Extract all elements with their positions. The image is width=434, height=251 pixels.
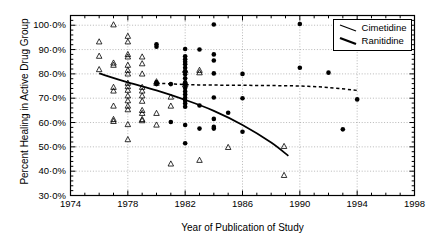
- x-tick-label: 1986: [223, 199, 263, 209]
- legend: Cimetidine Ranitidine: [333, 19, 412, 51]
- data-point-ranitidine: [197, 126, 202, 131]
- data-point-ranitidine: [212, 95, 217, 100]
- cimetidine-line-icon: [337, 22, 359, 34]
- data-point-ranitidine: [240, 96, 245, 101]
- ranitidine-line-icon: [337, 35, 359, 47]
- data-point-ranitidine: [183, 141, 188, 146]
- data-point-ranitidine: [154, 44, 159, 49]
- y-tick-labels: 30·0%40·0%50·0%60·0%70·0%80·0%90·0%100·0…: [18, 0, 66, 251]
- data-point-ranitidine: [212, 58, 217, 63]
- data-point-ranitidine: [183, 123, 188, 128]
- data-point-cimetidine: [139, 71, 145, 76]
- data-point-cimetidine: [139, 98, 145, 103]
- x-tick-label: 1974: [51, 199, 91, 209]
- data-point-ranitidine: [341, 127, 346, 132]
- x-tick-label: 1982: [165, 199, 205, 209]
- legend-entry-ranitidine: Ranitidine: [337, 35, 407, 48]
- y-tick-label: 90·0%: [22, 45, 66, 55]
- data-point-cimetidine: [96, 39, 102, 44]
- data-point-cimetidine: [281, 172, 287, 177]
- data-point-ranitidine: [212, 22, 217, 27]
- x-tick-label: 1994: [337, 199, 377, 209]
- legend-label-cimetidine: Cimetidine: [359, 23, 407, 33]
- data-point-cimetidine: [111, 103, 117, 108]
- data-point-cimetidine: [111, 22, 117, 27]
- data-point-ranitidine: [169, 120, 174, 125]
- y-tick-label: 100·0%: [22, 20, 66, 30]
- y-tick-label: 40·0%: [22, 166, 66, 176]
- data-point-ranitidine: [183, 104, 188, 109]
- data-point-ranitidine: [212, 52, 217, 57]
- data-point-cimetidine: [197, 157, 203, 162]
- data-point-ranitidine: [183, 47, 188, 52]
- data-point-ranitidine: [212, 117, 217, 122]
- data-point-cimetidine: [168, 161, 174, 166]
- x-axis-title: Year of Publication of Study: [70, 222, 415, 233]
- data-point-ranitidine: [183, 76, 188, 81]
- data-point-ranitidine: [298, 65, 303, 70]
- data-point-ranitidine: [240, 129, 245, 134]
- legend-label-ranitidine: Ranitidine: [359, 36, 404, 46]
- data-point-cimetidine: [96, 53, 102, 58]
- data-point-cimetidine: [154, 110, 160, 115]
- data-point-ranitidine: [298, 22, 303, 27]
- x-tick-label: 1978: [108, 199, 148, 209]
- data-point-ranitidine: [355, 97, 360, 102]
- data-point-cimetidine: [168, 103, 174, 108]
- x-tick-label: 1998: [395, 199, 434, 209]
- data-point-cimetidine: [96, 67, 102, 72]
- legend-entry-cimetidine: Cimetidine: [337, 22, 407, 35]
- data-point-ranitidine: [197, 47, 202, 52]
- y-tick-label: 70·0%: [22, 93, 66, 103]
- data-point-ranitidine: [226, 110, 231, 115]
- data-points-layer: [96, 22, 359, 178]
- data-point-ranitidine: [326, 70, 331, 75]
- data-point-cimetidine: [281, 143, 287, 148]
- y-tick-label: 50·0%: [22, 142, 66, 152]
- data-point-ranitidine: [212, 71, 217, 76]
- data-point-cimetidine: [139, 54, 145, 59]
- data-point-cimetidine: [139, 61, 145, 66]
- y-tick-label: 80·0%: [22, 69, 66, 79]
- x-tick-labels: 1974197819821986199019941998: [0, 199, 434, 213]
- x-tick-label: 1990: [280, 199, 320, 209]
- data-point-ranitidine: [212, 126, 217, 131]
- data-point-cimetidine: [139, 93, 145, 98]
- chart-figure: Percent Healing in Active Drug Group 30·…: [0, 0, 434, 251]
- data-point-ranitidine: [240, 72, 245, 77]
- y-tick-label: 60·0%: [22, 118, 66, 128]
